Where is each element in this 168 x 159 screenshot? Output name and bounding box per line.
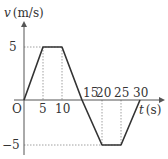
x-axis-label: t(s) xyxy=(139,103,161,117)
y-axis-unit: (m/s) xyxy=(13,6,44,20)
x-tick-10: 10 xyxy=(55,102,70,116)
x-tick-20: 20 xyxy=(96,86,111,100)
y-tick-5: 5 xyxy=(9,40,17,54)
x-axis-unit: (s) xyxy=(146,103,162,117)
x-tick-5: 5 xyxy=(39,102,47,116)
x-tick-30: 30 xyxy=(133,86,148,100)
y-axis-label: v(m/s) xyxy=(4,6,44,20)
velocity-time-chart: v(m/s) 5 −5 O 5 10 15 20 25 30 t(s) xyxy=(0,0,168,159)
x-axis-var: t xyxy=(139,103,144,117)
x-tick-25: 25 xyxy=(114,86,129,100)
y-tick-neg5: −5 xyxy=(2,138,20,152)
y-axis-var: v xyxy=(4,6,11,20)
origin-label: O xyxy=(12,102,22,116)
